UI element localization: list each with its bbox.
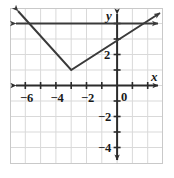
coordinate-plane-svg — [0, 0, 174, 178]
x-axis-label: x — [151, 70, 158, 83]
y-tick-label-neg2: −2 — [98, 111, 111, 124]
y-tick-label-2: 2 — [104, 49, 110, 62]
y-axis-label: y — [106, 9, 112, 22]
x-tick-label-neg4: −4 — [51, 92, 64, 105]
x-tick-label-neg2: −2 — [81, 92, 94, 105]
x-tick-label-neg6: −6 — [20, 92, 33, 105]
y-tick-label-neg4: −4 — [98, 142, 111, 155]
origin-label: 0 — [121, 91, 127, 104]
coordinate-graph-figure: −6 −4 −2 0 2 −2 −4 y x — [0, 0, 174, 178]
